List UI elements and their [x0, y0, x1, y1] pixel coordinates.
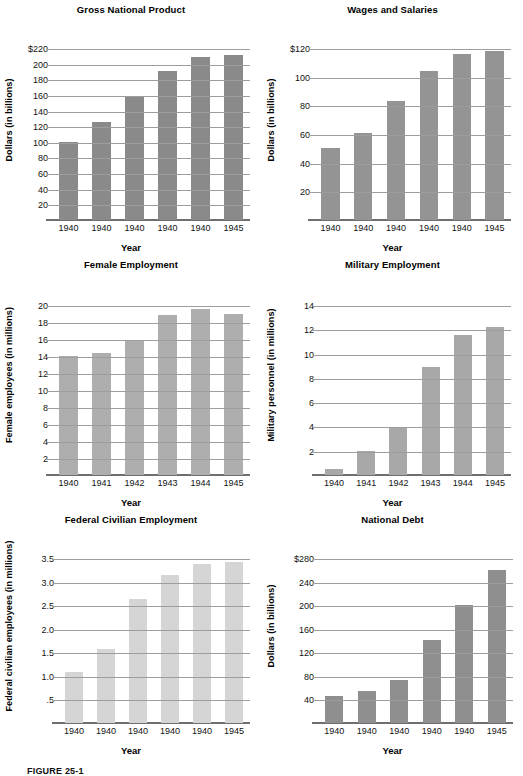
x-axis-ticks: 194019401940194019401945	[52, 223, 250, 237]
x-axis-tick-label: 1942	[388, 478, 408, 488]
bar	[224, 314, 242, 476]
gridline	[47, 174, 250, 175]
gridline	[313, 630, 513, 631]
bar-series	[318, 306, 511, 475]
y-axis-tick-label: $220	[28, 44, 48, 54]
gridline	[47, 357, 250, 358]
gridline	[313, 700, 513, 701]
bar	[422, 367, 440, 475]
y-axis-tick-label: 200	[299, 601, 314, 611]
y-axis-ticks: 20406080100120140160180200$220	[16, 49, 50, 221]
gridline	[47, 96, 250, 97]
plot-area	[58, 559, 250, 724]
x-axis-tick-label: 1943	[157, 478, 177, 488]
gridline	[47, 190, 250, 191]
bar	[387, 101, 405, 220]
x-axis-tick-label: 1940	[454, 726, 474, 736]
gridline	[47, 49, 250, 50]
x-axis-label: Year	[0, 497, 262, 508]
gridline	[313, 355, 511, 356]
chart-female-employment: Female Employment Female employees (in m…	[0, 255, 262, 510]
bar	[225, 562, 243, 723]
gridline	[53, 700, 250, 701]
chart-title: Military Employment	[262, 255, 523, 270]
x-axis-tick-label: 1944	[190, 478, 210, 488]
bar	[390, 680, 408, 723]
bar	[420, 71, 438, 220]
bar	[354, 133, 372, 220]
y-axis-ticks: 2468101214161820	[16, 306, 50, 476]
plot-area	[314, 49, 511, 221]
bar	[158, 71, 176, 220]
plot-area	[318, 559, 513, 724]
plot-wrap: Dollars (in billions) 4080120160200240$2…	[262, 528, 523, 758]
gridline	[313, 330, 511, 331]
gridline	[313, 379, 511, 380]
x-axis-ticks: 194019401940194019401945	[58, 726, 250, 740]
x-axis-tick-label: 1940	[128, 726, 148, 736]
gridline	[53, 559, 250, 560]
gridline	[313, 583, 513, 584]
y-axis-tick-label: $120	[290, 44, 310, 54]
chart-wages-and-salaries: Wages and Salaries Dollars (in billions)…	[262, 0, 523, 255]
y-axis-label: Federal civilian employees (in millions)	[2, 528, 16, 724]
chart-gross-national-product: Gross National Product Dollars (in billi…	[0, 0, 262, 255]
plot-wrap: Dollars (in billions) 204060801001201401…	[0, 18, 262, 255]
x-axis-tick-label: 1940	[160, 726, 180, 736]
gridline	[53, 653, 250, 654]
x-axis-tick-label: 1940	[91, 223, 111, 233]
x-axis-tick-label: 1940	[58, 223, 78, 233]
y-axis-tick-label: 120	[299, 648, 314, 658]
bar	[193, 564, 211, 723]
plot-wrap: Dollars (in billions) 20406080100$120 19…	[262, 18, 523, 255]
x-axis-tick-label: 1945	[224, 726, 244, 736]
x-axis-tick-label: 1940	[192, 726, 212, 736]
x-axis-tick-label: 1945	[223, 478, 243, 488]
gridline	[309, 192, 511, 193]
gridline	[47, 374, 250, 375]
bar	[129, 599, 147, 723]
gridline	[53, 677, 250, 678]
gridline	[313, 306, 511, 307]
gridline	[47, 442, 250, 443]
chart-military-employment: Military Employment Military personnel (…	[262, 255, 523, 510]
x-axis-tick-label: 1940	[190, 223, 210, 233]
y-axis-tick-label: 100	[295, 73, 310, 83]
y-axis-ticks: 4080120160200240$280	[282, 559, 316, 724]
x-axis-label: Year	[262, 497, 523, 508]
y-axis-tick-label: 100	[33, 138, 48, 148]
gridline	[313, 452, 511, 453]
gridline	[47, 112, 250, 113]
y-axis-tick-label: 160	[299, 625, 314, 635]
x-axis-label: Year	[0, 745, 262, 756]
plot-wrap: Military personnel (in millions) 2468101…	[262, 273, 523, 510]
gridline	[309, 106, 511, 107]
x-axis-tick-label: 1943	[421, 478, 441, 488]
x-axis-tick-label: 1940	[353, 223, 373, 233]
bar	[486, 327, 504, 475]
gridline	[309, 49, 511, 50]
bar-series	[58, 559, 250, 723]
chart-title: Federal Civilian Employment	[0, 510, 262, 525]
y-axis-label: Female employees (in millions)	[2, 273, 16, 476]
bar	[454, 335, 472, 475]
chart-title: National Debt	[262, 510, 523, 525]
gridline	[47, 391, 250, 392]
gridline	[53, 630, 250, 631]
chart-title: Wages and Salaries	[262, 0, 523, 15]
gridline	[309, 164, 511, 165]
bar	[455, 605, 473, 723]
x-axis-tick-label: 1940	[422, 726, 442, 736]
chart-federal-civilian-employment: Federal Civilian Employment Federal civi…	[0, 510, 262, 758]
x-axis-tick-label: 1940	[320, 223, 340, 233]
x-axis-tick-label: 1945	[487, 726, 507, 736]
bar	[453, 54, 471, 220]
plot-area	[52, 49, 250, 221]
bar	[358, 691, 376, 723]
y-axis-label: Dollars (in billions)	[264, 18, 278, 221]
x-axis-ticks: 194019401940194019401945	[314, 223, 511, 237]
x-axis-tick-label: 1940	[357, 726, 377, 736]
gridline	[53, 606, 250, 607]
y-axis-label: Dollars (in billions)	[2, 18, 16, 221]
x-axis-tick-label: 1945	[485, 478, 505, 488]
